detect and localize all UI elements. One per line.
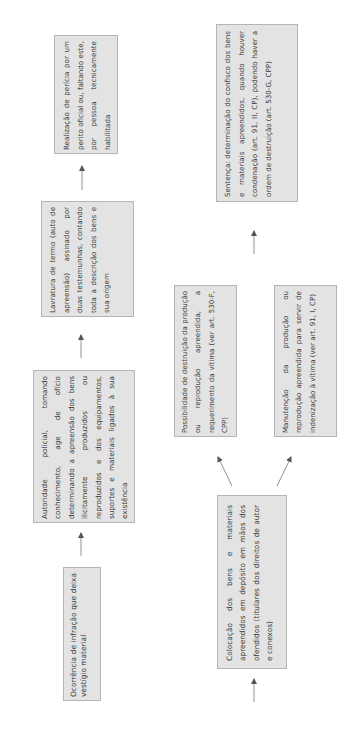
node-autoridade-text: Autoridade policial, tomando conheciment… (34, 371, 135, 523)
arrow-colocacao-to-possibilidade (218, 457, 232, 486)
node-colocacao-text: Colocação dos bens e materiais apreendid… (218, 496, 287, 669)
node-manutencao-text: Manutenção da produção ou reprodução apr… (275, 286, 337, 437)
node-sentenca: Sentença: determinação do confisco dos b… (216, 24, 298, 202)
node-ocorrencia: Ocorrência de infração que deixa vestígi… (63, 567, 101, 701)
arrow-colocacao-to-manutencao (277, 457, 291, 486)
node-colocacao: Colocação dos bens e materiais apreendid… (217, 495, 287, 669)
node-realizacao-text: Realização de perícia por um perito ofic… (55, 36, 118, 154)
node-possibilidade: Possibilidade de destruição da produção … (174, 285, 237, 437)
node-lavratura-text: Lavratura de termo (auto de apreensão) a… (42, 202, 134, 317)
node-lavratura: Lavratura de termo (auto de apreensão) a… (41, 201, 134, 317)
node-sentenca-text: Sentença: determinação do confisco dos b… (217, 25, 298, 202)
node-ocorrencia-text: Ocorrência de infração que deixa vestígi… (64, 568, 101, 701)
node-realizacao: Realização de perícia por um perito ofic… (54, 35, 118, 154)
node-autoridade: Autoridade policial, tomando conheciment… (33, 370, 135, 523)
node-manutencao: Manutenção da produção ou reprodução apr… (274, 285, 337, 437)
node-possibilidade-text: Possibilidade de destruição da produção … (175, 286, 237, 437)
